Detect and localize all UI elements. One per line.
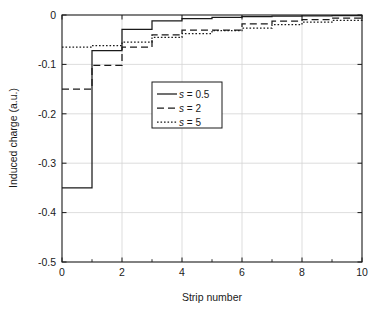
x-tick-label: 6 bbox=[239, 266, 245, 278]
legend-label-2: s = 2 bbox=[179, 103, 201, 114]
y-tick-label: -0.5 bbox=[38, 256, 56, 268]
x-tick-label: 4 bbox=[179, 266, 185, 278]
x-axis-title: Strip number bbox=[182, 291, 243, 303]
y-tick-label: 0 bbox=[50, 9, 56, 21]
y-tick-label: -0.2 bbox=[38, 108, 56, 120]
legend: s = 0.5s = 2s = 5 bbox=[152, 82, 222, 128]
induced-charge-step-chart: 0246810 0-0.1-0.2-0.3-0.4-0.5 Strip numb… bbox=[0, 0, 376, 312]
x-tick-label: 8 bbox=[299, 266, 305, 278]
y-tick-label: -0.1 bbox=[38, 58, 56, 70]
figure-container: 0246810 0-0.1-0.2-0.3-0.4-0.5 Strip numb… bbox=[0, 0, 376, 312]
x-tick-label: 10 bbox=[356, 266, 368, 278]
legend-label-3: s = 5 bbox=[179, 117, 201, 128]
y-tick-label: -0.3 bbox=[38, 157, 56, 169]
x-tick-label: 2 bbox=[119, 266, 125, 278]
x-tick-label: 0 bbox=[59, 266, 65, 278]
legend-label-1: s = 0.5 bbox=[179, 89, 210, 100]
y-tick-label: -0.4 bbox=[38, 206, 56, 218]
y-axis-title: Induced charge (a.u.) bbox=[7, 88, 19, 188]
figure-background bbox=[0, 0, 376, 312]
